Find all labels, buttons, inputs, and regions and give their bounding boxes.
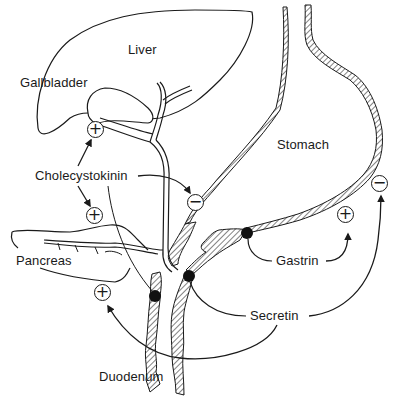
gallbladder-label: Gallbladder [20, 76, 88, 89]
pancreas-label: Pancreas [16, 254, 72, 267]
minus-icon: − [188, 195, 203, 210]
secretin-label: Secretin [250, 309, 299, 322]
duodenum-right-wall [171, 272, 193, 395]
gastrin-label: Gastrin [276, 254, 319, 267]
pylorus-lower-wall [168, 222, 196, 266]
liver-lower-edge [38, 113, 88, 134]
plus-icon: + [88, 122, 103, 137]
cholecystokinin-label: Cholecystokinin [35, 169, 128, 182]
secretin-source-line [190, 282, 246, 316]
duodenum-label: Duodenum [99, 370, 163, 383]
pylorus-wedge [186, 229, 246, 274]
minus-icon: − [372, 176, 387, 191]
liver-label: Liver [128, 43, 157, 56]
pancreas-cck-stimulate-sign: + [86, 207, 103, 224]
stomach-cck-inhibit-sign: − [187, 194, 204, 211]
plus-icon: + [95, 285, 110, 300]
pancreatic-duct [44, 240, 163, 254]
pancreas-secretin-stimulate-sign: + [94, 284, 111, 301]
plus-icon: + [338, 207, 353, 222]
cck-to-pancreas-arrow [78, 186, 90, 206]
cck-source-line [108, 186, 153, 292]
hepatic-duct-left [150, 82, 166, 142]
gastrin-source-dot [241, 227, 253, 239]
cck-to-gallbladder-arrow [78, 140, 91, 166]
gastrin-source-line [248, 239, 272, 261]
pancreas-left-tip [11, 232, 18, 248]
stomach-gastrin-stimulate-sign: + [337, 206, 354, 223]
stomach-right-wall [246, 5, 383, 233]
stomach-secretin-inhibit-sign: − [371, 175, 388, 192]
gallbladder-stimulate-sign: + [87, 121, 104, 138]
plus-icon: + [87, 208, 102, 223]
gastrin-to-stomach-arrow [326, 234, 348, 261]
secretin-source-dot-right [183, 270, 195, 282]
hepatic-duct-right [163, 86, 192, 104]
stomach-label: Stomach [277, 138, 329, 151]
cck-source-dot [149, 290, 161, 302]
